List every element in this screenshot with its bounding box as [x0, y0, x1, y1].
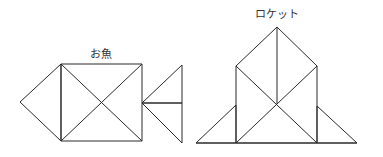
tangram-diagram	[0, 0, 383, 157]
fish-head-triangle-top	[20, 64, 61, 141]
rocket-right-fin	[317, 106, 357, 143]
fish-tail-lower-triangle	[142, 103, 182, 143]
fish-figure	[20, 64, 182, 143]
rocket-left-fin	[196, 105, 236, 143]
fish-tail-upper-triangle	[142, 65, 182, 103]
rocket-figure	[196, 27, 357, 143]
